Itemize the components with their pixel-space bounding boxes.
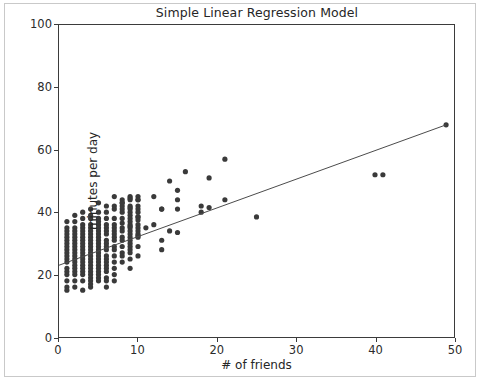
y-axis-label: minutes per day: [86, 91, 100, 271]
data-point: [199, 203, 204, 208]
x-tick-label: 50: [432, 343, 478, 357]
x-tick-mark: [137, 338, 138, 342]
data-point: [112, 260, 117, 265]
data-point: [207, 175, 212, 180]
data-point: [112, 194, 117, 199]
y-tick-mark: [54, 87, 58, 88]
data-point: [135, 217, 140, 222]
data-point: [128, 266, 133, 271]
data-point: [104, 231, 109, 236]
data-point: [175, 230, 180, 235]
data-point: [112, 272, 117, 277]
data-point: [80, 210, 85, 215]
y-tick-label: 40: [6, 205, 52, 219]
data-point: [112, 266, 117, 271]
data-point: [159, 247, 164, 252]
chart-figure: Simple Linear Regression Model minutes p…: [0, 0, 481, 382]
x-axis-label: # of friends: [58, 358, 455, 372]
data-point: [80, 216, 85, 221]
x-tick-mark: [455, 338, 456, 342]
y-tick-label: 100: [6, 17, 52, 31]
y-tick-label: 60: [6, 143, 52, 157]
data-point: [104, 278, 109, 283]
scatter-points: [64, 122, 448, 293]
data-point: [88, 281, 93, 286]
x-tick-mark: [58, 338, 59, 342]
data-point: [128, 197, 133, 202]
chart-title: Simple Linear Regression Model: [58, 5, 456, 20]
data-point: [222, 157, 227, 162]
data-point: [104, 284, 109, 289]
y-tick-label: 80: [6, 80, 52, 94]
data-point: [64, 288, 69, 293]
data-point: [151, 222, 156, 227]
y-tick-mark: [54, 150, 58, 151]
regression-line: [59, 125, 446, 265]
data-point: [159, 206, 164, 211]
data-point: [128, 250, 133, 255]
x-tick-label: 0: [35, 343, 81, 357]
x-tick-label: 40: [353, 343, 399, 357]
data-point: [112, 216, 117, 221]
data-point: [175, 188, 180, 193]
data-point: [112, 238, 117, 243]
data-point: [72, 284, 77, 289]
data-point: [112, 253, 117, 258]
data-point: [380, 172, 385, 177]
x-tick-mark: [217, 338, 218, 342]
x-tick-mark: [296, 338, 297, 342]
y-tick-mark: [54, 24, 58, 25]
data-point: [64, 219, 69, 224]
data-point: [104, 210, 109, 215]
y-tick-label: 20: [6, 268, 52, 282]
data-point: [135, 197, 140, 202]
x-tick-mark: [376, 338, 377, 342]
data-point: [72, 213, 77, 218]
data-point: [96, 278, 101, 283]
data-point: [254, 214, 259, 219]
data-point: [135, 244, 140, 249]
plot-area: minutes per day: [58, 24, 455, 338]
data-point: [151, 194, 156, 199]
y-tick-mark: [54, 275, 58, 276]
data-point: [135, 253, 140, 258]
data-point: [112, 247, 117, 252]
data-point: [112, 206, 117, 211]
data-point: [372, 172, 377, 177]
data-point: [80, 272, 85, 277]
data-point: [120, 200, 125, 205]
data-point: [120, 221, 125, 226]
x-tick-label: 20: [194, 343, 240, 357]
data-point: [120, 244, 125, 249]
data-point: [120, 260, 125, 265]
data-point: [72, 278, 77, 283]
data-point: [159, 238, 164, 243]
data-point: [104, 269, 109, 274]
x-tick-label: 30: [273, 343, 319, 357]
data-point: [120, 253, 125, 258]
data-point: [167, 178, 172, 183]
data-point: [80, 278, 85, 283]
data-point: [128, 256, 133, 261]
data-point: [135, 210, 140, 215]
data-point: [175, 197, 180, 202]
data-point: [183, 169, 188, 174]
data-point: [222, 197, 227, 202]
x-tick-label: 10: [114, 343, 160, 357]
data-point: [80, 288, 85, 293]
data-point: [120, 210, 125, 215]
data-point: [207, 205, 212, 210]
data-point: [112, 278, 117, 283]
data-point: [72, 272, 77, 277]
data-point: [104, 203, 109, 208]
y-tick-mark: [54, 212, 58, 213]
data-point: [64, 272, 69, 277]
data-point: [72, 219, 77, 224]
data-point: [143, 225, 148, 230]
data-point: [175, 206, 180, 211]
plot-canvas: [59, 25, 454, 337]
data-point: [167, 228, 172, 233]
data-point: [120, 228, 125, 233]
data-point: [104, 216, 109, 221]
data-point: [120, 216, 125, 221]
